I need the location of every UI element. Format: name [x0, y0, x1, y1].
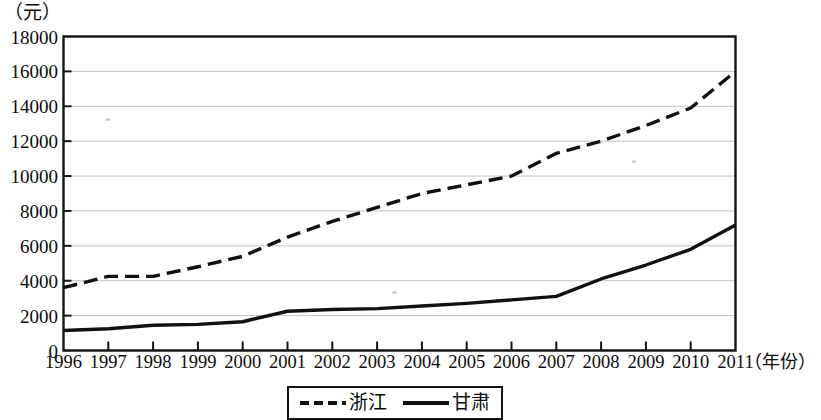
plot-area: [0, 0, 821, 420]
series-line-gansu: [64, 225, 736, 331]
scan-artifact: [632, 160, 636, 163]
legend-label: 浙江: [349, 393, 387, 413]
legend: 浙江甘肃: [287, 386, 503, 420]
legend-item[interactable]: 浙江: [300, 393, 387, 413]
legend-item[interactable]: 甘肃: [403, 393, 490, 413]
data-series-layer: [64, 71, 736, 330]
solid-line-icon: [403, 401, 449, 405]
scan-artifact: [392, 291, 397, 294]
x-axis-ticks: [108, 342, 690, 351]
legend-entries: 浙江甘肃: [289, 388, 501, 418]
legend-label: 甘肃: [452, 393, 490, 413]
dashed-line-icon: [300, 401, 346, 405]
chart-figure: （元） 020004000600080001000012000140001600…: [0, 0, 821, 420]
axis-frame: [64, 37, 736, 351]
scan-artifact: [105, 118, 110, 121]
gridlines: [64, 37, 736, 316]
series-line-zhejiang: [64, 71, 736, 287]
